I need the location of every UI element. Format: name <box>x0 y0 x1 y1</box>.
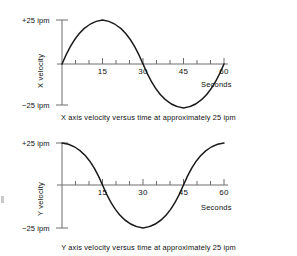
x-tick-label-60: 60 <box>219 188 228 197</box>
page-edge-mark <box>1 196 4 203</box>
x-major-ticks <box>103 58 225 64</box>
x-tick-label-15: 15 <box>98 188 107 197</box>
y-positive-value-label: +25 ipm <box>22 139 50 148</box>
x-tick-label-45: 45 <box>179 188 188 197</box>
x-velocity-plot-area: X velocity +25 ipm −25 ipm 15 30 45 60 S… <box>0 0 297 112</box>
y-velocity-figure: Y velocity +25 ipm −25 ipm 15 30 45 60 S… <box>0 128 297 256</box>
x-axis-title: Seconds <box>201 203 232 212</box>
y-velocity-plot-area: Y velocity +25 ipm −25 ipm 15 30 45 60 S… <box>0 128 297 240</box>
x-positive-value-label: +25 ipm <box>22 16 50 25</box>
y-velocity-caption: Y axis velocity versus time at approxima… <box>0 243 297 252</box>
x-tick-label-30: 30 <box>138 67 147 76</box>
x-velocity-axis-label: X velocity <box>36 54 45 88</box>
x-negative-value-label: −25 ipm <box>22 101 50 110</box>
x-tick-label-60: 60 <box>219 67 228 76</box>
x-tick-label-15: 15 <box>98 67 107 76</box>
x-velocity-figure: X velocity +25 ipm −25 ipm 15 30 45 60 S… <box>0 0 297 128</box>
x-axis-title: Seconds <box>201 80 232 89</box>
x-velocity-caption: X axis velocity versus time at approxima… <box>0 113 297 122</box>
y-velocity-axis-label: Y velocity <box>36 182 45 216</box>
x-tick-label-30: 30 <box>138 188 147 197</box>
y-negative-value-label: −25 ipm <box>22 224 50 233</box>
x-major-ticks <box>103 179 225 185</box>
x-tick-label-45: 45 <box>179 67 188 76</box>
